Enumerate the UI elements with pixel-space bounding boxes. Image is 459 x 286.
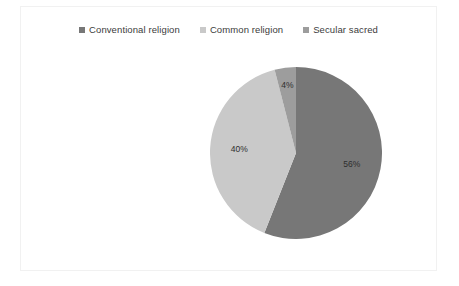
legend-item-secular-sacred[interactable]: Secular sacred [303, 25, 378, 35]
legend-swatch-square-icon [79, 27, 85, 33]
legend-swatch-square-icon [303, 27, 309, 33]
legend-item-common-religion[interactable]: Common religion [200, 25, 283, 35]
pie-chart: 56%40%4% [210, 67, 382, 239]
legend-item-conventional-religion[interactable]: Conventional religion [79, 25, 180, 35]
pie-data-label: 56% [343, 159, 360, 169]
pie-data-label: 40% [231, 144, 248, 154]
chart-frame: Conventional religion Common religion Se… [20, 6, 437, 271]
pie-chart-svg: 56%40%4% [210, 67, 382, 239]
legend-label: Secular sacred [313, 25, 378, 35]
legend-swatch-square-icon [200, 27, 206, 33]
chart-legend: Conventional religion Common religion Se… [21, 25, 436, 35]
legend-label: Common religion [210, 25, 283, 35]
legend-label: Conventional religion [89, 25, 180, 35]
pie-data-label: 4% [281, 80, 294, 90]
